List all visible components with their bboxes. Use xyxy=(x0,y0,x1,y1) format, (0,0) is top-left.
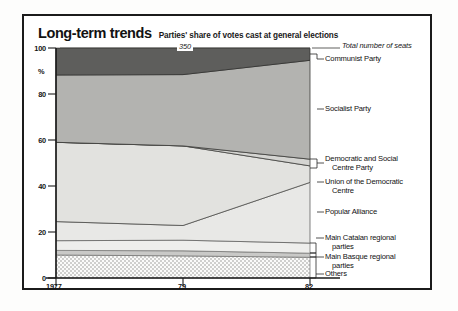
x-tick-79: 79 xyxy=(178,282,186,291)
x-tick-82: 82 xyxy=(305,282,313,291)
series-label-ucd: Union of the Democratic Centre xyxy=(325,177,403,196)
series-label-basque-line1: Main Basque regional xyxy=(325,252,395,261)
series-label-popular-alliance-line1: Popular Alliance xyxy=(325,207,377,216)
series-label-ucd-line1: Union of the Democratic xyxy=(325,177,403,186)
series-label-others: Others xyxy=(325,269,347,278)
series-label-cds-line1: Democratic and Social xyxy=(325,154,398,163)
total-seats-value: 350 xyxy=(177,42,193,51)
series-label-basque: Main Basque regional parties xyxy=(325,252,395,271)
total-seats-note: Total number of seats xyxy=(342,41,412,50)
label-leader-lines xyxy=(310,54,324,278)
series-label-communist-line1: Communist Party xyxy=(325,54,381,63)
series-label-communist: Communist Party xyxy=(325,54,381,63)
series-label-catalan: Main Catalan regional parties xyxy=(325,233,396,252)
series-label-catalan-line2: parties xyxy=(325,242,396,251)
series-label-ucd-line2: Centre xyxy=(325,186,403,195)
chart-bands xyxy=(56,48,310,278)
series-label-cds: Democratic and Social Centre Party xyxy=(325,154,398,173)
band-others xyxy=(56,255,310,278)
y-tick-20: 20 xyxy=(24,228,46,237)
y-tick-40: 40 xyxy=(24,182,46,191)
y-axis-unit-label: % xyxy=(38,67,44,76)
series-label-cds-line2: Centre Party xyxy=(325,163,398,172)
series-label-socialist-line1: Socialist Party xyxy=(325,104,371,113)
series-label-popular-alliance: Popular Alliance xyxy=(325,207,377,216)
series-label-catalan-line1: Main Catalan regional xyxy=(325,233,396,242)
series-label-others-line1: Others xyxy=(325,269,347,278)
y-tick-60: 60 xyxy=(24,136,46,145)
y-tick-0: 0 xyxy=(24,274,46,283)
chart-panel: Long-term trendsParties' share of votes … xyxy=(22,14,432,290)
y-tick-80: 80 xyxy=(24,90,46,99)
y-axis-ticks xyxy=(48,48,56,278)
series-label-socialist: Socialist Party xyxy=(325,104,371,113)
y-tick-100: 100 xyxy=(24,44,46,53)
figure-canvas: Long-term trendsParties' share of votes … xyxy=(0,0,458,311)
x-tick-1977: 1977 xyxy=(46,282,62,291)
plot-area: 350 Total number of seats 100 80 60 40 2… xyxy=(24,16,434,292)
